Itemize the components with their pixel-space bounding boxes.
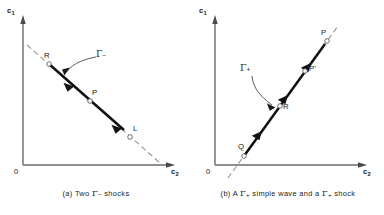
panel-b: c1 c2 0 Γ+ P P' R Q (b) A Γ+ simple wave… xyxy=(192,0,384,215)
panel-a-yaxis-label: c1 xyxy=(7,6,15,16)
panel-a-point-label-L: L xyxy=(133,124,138,133)
panel-b-gamma-leader xyxy=(252,76,276,111)
panel-b-point-label-Q: Q xyxy=(238,142,244,151)
marker-R xyxy=(47,62,52,67)
panel-b-caption-mid: simple wave and a xyxy=(250,189,322,198)
panel-b-point-label-R: R xyxy=(283,102,289,111)
panel-a: c1 c2 0 Γ− R P L (a) Two Γ− shocks xyxy=(0,0,192,215)
marker-P xyxy=(325,39,330,44)
panel-b-caption-suffix: shock xyxy=(332,189,355,198)
panel-b-yaxis-label-sub: 1 xyxy=(203,10,206,16)
panel-a-axes xyxy=(20,15,175,168)
panel-a-xaxis-label: c2 xyxy=(171,167,179,177)
panel-a-xaxis-label-sub: 2 xyxy=(175,171,178,177)
marker-P-prime xyxy=(303,69,308,74)
marker-L xyxy=(128,135,133,140)
panel-a-origin-label: 0 xyxy=(14,167,18,176)
panel-a-shock-segment xyxy=(49,64,124,130)
marker-Q xyxy=(242,154,247,159)
marker-R xyxy=(278,104,283,109)
figure-two-panel-characteristic-diagram: c1 c2 0 Γ− R P L (a) Two Γ− shocks xyxy=(0,0,384,215)
panel-a-gamma-minus-label: Γ− xyxy=(96,48,106,59)
panel-a-point-label-P: P xyxy=(92,88,97,97)
panel-a-caption-suffix: shocks xyxy=(102,189,130,198)
marker-P xyxy=(88,99,93,104)
panel-b-xaxis-label: c2 xyxy=(363,167,371,177)
panel-a-point-label-R: R xyxy=(44,51,50,60)
panel-a-caption-prefix: (a) Two xyxy=(63,189,92,198)
panel-b-caption-prefix: (b) A xyxy=(221,189,240,198)
panel-b-gamma-subscript: + xyxy=(247,66,251,73)
panel-a-gamma-leader xyxy=(62,57,96,76)
panel-b-origin-label: 0 xyxy=(206,167,210,176)
panel-b-yaxis-label: c1 xyxy=(199,6,207,16)
panel-b-plot xyxy=(192,0,384,190)
panel-b-point-label-P-prime: P' xyxy=(309,64,316,73)
panel-a-caption: (a) Two Γ− shocks xyxy=(0,188,192,198)
panel-b-xaxis-label-sub: 2 xyxy=(367,171,370,177)
panel-a-yaxis-label-sub: 1 xyxy=(11,10,14,16)
panel-b-point-label-P: P xyxy=(321,28,326,37)
panel-b-caption: (b) A Γ+ simple wave and a Γ+ shock xyxy=(192,188,384,198)
panel-b-gamma-plus-label: Γ+ xyxy=(240,62,250,73)
panel-a-gamma-subscript: − xyxy=(103,52,107,59)
